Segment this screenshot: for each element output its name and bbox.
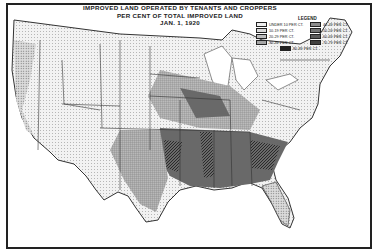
legend-title: LEGEND <box>298 16 317 21</box>
legend-label: 70-79 PER CT. <box>323 41 348 45</box>
legend-swatch <box>310 40 321 45</box>
legend-label: 10-19 PER CT. <box>269 29 294 33</box>
legend-swatch <box>310 28 321 33</box>
legend-label: 50-59 PER CT. <box>323 29 348 33</box>
legend-item: 50-59 PER CT. <box>310 28 348 33</box>
legend-swatch <box>256 40 267 45</box>
legend-swatch <box>256 28 267 33</box>
legend-item: UNDER 10 PER CT. <box>256 22 303 27</box>
legend-item: 80-89 PER CT. <box>280 46 318 51</box>
legend-label: 40-49 PER CT. <box>323 23 348 27</box>
legend-item: 60-69 PER CT. <box>310 34 348 39</box>
legend-swatch <box>310 34 321 39</box>
title-line-1: IMPROVED LAND OPERATED BY TENANTS AND CR… <box>60 4 300 12</box>
legend-swatch <box>256 34 267 39</box>
legend-item: 40-49 PER CT. <box>310 22 348 27</box>
legend-item: 70-79 PER CT. <box>310 40 348 45</box>
legend-label: 60-69 PER CT. <box>323 35 348 39</box>
legend-item: 10-19 PER CT. <box>256 28 294 33</box>
legend-swatch <box>280 46 291 51</box>
legend-label: 30-39 PER CT. <box>269 41 294 45</box>
legend-label: 20-29 PER CT. <box>269 35 294 39</box>
legend-label: UNDER 10 PER CT. <box>269 23 303 27</box>
legend-item: 30-39 PER CT. <box>256 40 294 45</box>
legend: LEGEND UNDER 10 PER CT. 10-19 PER CT. 20… <box>254 16 364 52</box>
legend-swatch <box>310 22 321 27</box>
legend-label: 80-89 PER CT. <box>293 47 318 51</box>
legend-item: 20-29 PER CT. <box>256 34 294 39</box>
legend-swatch <box>256 22 267 27</box>
